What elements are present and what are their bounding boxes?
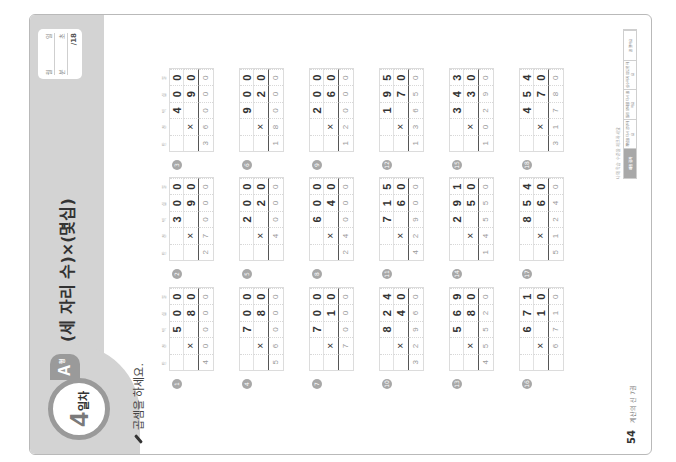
answer-cell[interactable]: 0 [479,69,493,85]
answer-cell[interactable]: 0 [269,211,283,227]
answer-cell[interactable]: 4 [199,354,213,370]
answer-cell[interactable]: 6 [409,102,423,118]
multiplier-cell: 2 [254,85,268,101]
answer-cell[interactable]: 1 [549,304,563,320]
answer-cell[interactable]: 2 [479,102,493,118]
answer-cell[interactable]: 7 [549,321,563,337]
answer-cell[interactable]: 4 [549,194,563,210]
answer-cell[interactable]: 0 [269,69,283,85]
answer-cell[interactable]: 9 [409,211,423,227]
answer-cell[interactable]: 0 [199,321,213,337]
answer-cell[interactable]: 7 [549,102,563,118]
answer-cell[interactable] [339,354,353,370]
answer-cell[interactable]: 0 [269,288,283,304]
answer-cell[interactable]: 0 [479,178,493,194]
answer-cell[interactable]: 0 [269,321,283,337]
answer-cell[interactable]: 5 [549,244,563,260]
answer-cell[interactable]: 0 [409,288,423,304]
answer-cell[interactable]: 6 [269,337,283,353]
answer-cell[interactable]: 0 [199,288,213,304]
answer-cell[interactable]: 3 [199,135,213,151]
answer-cell[interactable]: 0 [339,69,353,85]
answer-cell[interactable]: 0 [339,102,353,118]
answer-cell[interactable]: 2 [409,227,423,243]
answer-cell[interactable]: 1 [409,135,423,151]
answer-cell[interactable]: 7 [339,337,353,353]
answer-cell[interactable]: 2 [409,337,423,353]
answer-cell[interactable]: 0 [269,194,283,210]
problem-8: 8600×4024000 [309,161,359,261]
answer-cell[interactable]: 4 [269,227,283,243]
answer-cell[interactable]: 0 [269,178,283,194]
answer-cell[interactable]: 0 [199,85,213,101]
answer-cell[interactable]: 6 [409,304,423,320]
answer-cell[interactable]: 2 [339,118,353,134]
answer-cell[interactable]: 0 [269,102,283,118]
answer-cell[interactable]: 3 [549,135,563,151]
answer-cell[interactable]: 5 [479,321,493,337]
multiplier-cell [464,354,478,370]
answer-cell[interactable]: 0 [549,69,563,85]
answer-cell[interactable]: 2 [199,244,213,260]
answer-cell[interactable]: 0 [339,178,353,194]
answer-cell[interactable]: 0 [199,211,213,227]
answer-cell[interactable]: 0 [549,178,563,194]
answer-cell[interactable]: 0 [199,337,213,353]
answer-cell[interactable]: 0 [199,69,213,85]
answer-cell[interactable]: 1 [479,244,493,260]
answer-cell[interactable]: 3 [409,354,423,370]
answer-cell[interactable]: 0 [339,85,353,101]
answer-cell[interactable]: 0 [199,304,213,320]
multiplier-cell [324,321,338,337]
answer-cell[interactable]: 5 [479,337,493,353]
answer-cell[interactable]: 9 [479,85,493,101]
answer-cell[interactable]: 0 [199,178,213,194]
answer-cell[interactable]: 0 [549,288,563,304]
answer-cell[interactable]: 4 [479,354,493,370]
multiply-sign: × [254,227,268,243]
answer-cell[interactable]: 2 [479,304,493,320]
answer-cell[interactable]: 4 [409,244,423,260]
answer-cell[interactable] [549,354,563,370]
answer-cell[interactable]: 5 [269,354,283,370]
answer-cell[interactable]: 0 [479,288,493,304]
answer-cell[interactable]: 5 [479,194,493,210]
answer-cell[interactable]: 2 [339,244,353,260]
answer-cell[interactable]: 4 [339,227,353,243]
answer-cell[interactable]: 1 [339,135,353,151]
multiplier-cell: 5 [464,194,478,210]
answer-cell[interactable]: 1 [549,118,563,134]
answer-cell[interactable] [269,244,283,260]
answer-cell[interactable]: 0 [339,211,353,227]
answer-cell[interactable]: 0 [269,85,283,101]
answer-cell[interactable]: 8 [549,85,563,101]
answer-cell[interactable]: 0 [339,321,353,337]
answer-cell[interactable]: 3 [409,118,423,134]
answer-cell[interactable]: 0 [409,178,423,194]
answer-cell[interactable]: 6 [199,118,213,134]
problem-number-badge: 16 [522,379,532,389]
answer-cell[interactable]: 0 [199,102,213,118]
answer-cell[interactable]: 0 [269,304,283,320]
answer-cell[interactable]: 0 [479,118,493,134]
answer-cell[interactable]: 8 [269,118,283,134]
answer-cell[interactable]: 4 [479,227,493,243]
answer-cell[interactable]: 6 [549,337,563,353]
answer-cell[interactable]: 0 [339,288,353,304]
answer-cell[interactable]: 2 [549,211,563,227]
answer-cell[interactable]: 9 [409,321,423,337]
answer-cell[interactable]: 1 [269,135,283,151]
multiplier-cell: 0 [324,288,338,304]
answer-cell[interactable]: 7 [199,227,213,243]
answer-cell[interactable]: 1 [549,227,563,243]
multiply-sign: × [394,227,408,243]
answer-cell[interactable]: 5 [479,211,493,227]
multiplier-cell [324,354,338,370]
answer-cell[interactable]: 0 [409,69,423,85]
answer-cell[interactable]: 0 [409,194,423,210]
answer-cell[interactable]: 0 [199,194,213,210]
answer-cell[interactable]: 1 [479,135,493,151]
answer-cell[interactable]: 0 [339,194,353,210]
answer-cell[interactable]: 5 [409,85,423,101]
answer-cell[interactable]: 0 [339,304,353,320]
